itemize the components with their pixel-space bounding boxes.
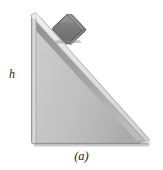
ground-shadow [33, 144, 150, 148]
panel-caption: (a) [0, 149, 163, 164]
figure-panel-a: h (a) [0, 0, 163, 170]
incline-wedge [31, 13, 151, 144]
incline-diagram [0, 0, 163, 170]
height-label: h [9, 68, 15, 80]
block-contact-shadow [55, 40, 82, 44]
